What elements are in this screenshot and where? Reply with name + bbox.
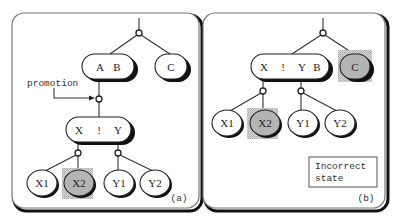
svg-text:Y2: Y2 xyxy=(333,117,346,129)
panel-a: A B C promotion X ! Y X1 X2 xyxy=(12,13,202,211)
note-line-2: state xyxy=(315,173,344,184)
key-b: B xyxy=(113,61,120,73)
key-bang: ! xyxy=(97,124,101,136)
key-x: X xyxy=(75,124,83,136)
svg-text:X2: X2 xyxy=(72,177,85,189)
key-bang: ! xyxy=(281,61,285,73)
leaf-x2-highlighted: X2 xyxy=(247,108,282,139)
svg-text:C: C xyxy=(351,61,358,73)
node-xyb: X ! Y B xyxy=(251,54,333,82)
junction-root-a xyxy=(136,30,142,36)
key-y: Y xyxy=(298,61,306,73)
incorrect-state-note: Incorrect state xyxy=(309,157,377,187)
panel-b: X ! Y B C X1 X2 Y1 xyxy=(203,13,388,211)
promotion-label: promotion xyxy=(27,78,78,89)
junction-y-b xyxy=(298,88,304,94)
key-y: Y xyxy=(114,124,122,136)
key-c: C xyxy=(167,61,174,73)
svg-text:Y1: Y1 xyxy=(112,177,125,189)
junction-y xyxy=(115,150,121,156)
panel-a-label: (a) xyxy=(170,193,187,204)
svg-text:X1: X1 xyxy=(35,177,48,189)
svg-text:Y1: Y1 xyxy=(296,117,309,129)
svg-text:Y2: Y2 xyxy=(148,177,161,189)
svg-text:X2: X2 xyxy=(258,117,271,129)
key-b: B xyxy=(313,61,320,73)
key-a: A xyxy=(96,61,104,73)
note-line-1: Incorrect xyxy=(315,161,366,172)
node-ab: A B xyxy=(82,54,138,82)
junction-x-b xyxy=(260,88,266,94)
junction-root-b xyxy=(320,30,326,36)
node-c-highlighted: C xyxy=(338,50,374,82)
junction-promotion xyxy=(96,96,102,102)
tree-diagram-figure: A B C promotion X ! Y X1 X2 xyxy=(0,0,404,221)
junction-x xyxy=(75,150,81,156)
node-xy: X ! Y xyxy=(66,117,135,145)
leaf-x2-highlighted: X2 xyxy=(62,168,96,199)
panel-b-label: (b) xyxy=(357,193,374,204)
key-x: X xyxy=(260,61,268,73)
svg-text:X1: X1 xyxy=(220,117,233,129)
